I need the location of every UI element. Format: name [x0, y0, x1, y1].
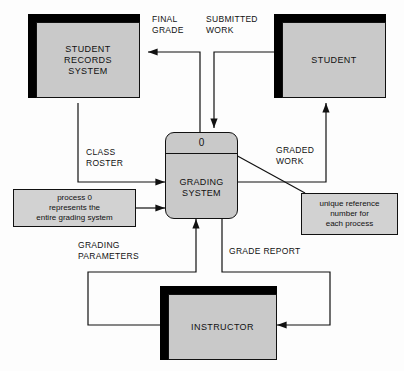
flow-label-grade-report: GRADE REPORT: [229, 246, 300, 257]
flow-label-graded-work: GRADED WORK: [276, 145, 314, 166]
entity-face: STUDENT RECORDS SYSTEM: [36, 22, 140, 98]
entity-instructor[interactable]: INSTRUCTOR: [160, 286, 277, 360]
flow-line-final-grade: [148, 52, 200, 132]
process-grading-system[interactable]: 0 GRADING SYSTEM: [165, 132, 238, 219]
note-text: unique reference number for each process: [319, 199, 379, 229]
process-divider: [166, 153, 237, 154]
entity-face: INSTRUCTOR: [168, 294, 277, 360]
note-text: process 0 represents the entire grading …: [36, 193, 112, 223]
note-unique-reference: unique reference number for each process: [301, 193, 398, 235]
flow-label-final-grade: FINAL GRADE: [152, 14, 184, 35]
dfd-diagram-canvas: STUDENT RECORDS SYSTEM STUDENT INSTRUCTO…: [0, 0, 404, 371]
process-number: 0: [166, 137, 237, 148]
entity-student-records-system[interactable]: STUDENT RECORDS SYSTEM: [28, 14, 140, 98]
entity-label: STUDENT RECORDS SYSTEM: [64, 44, 112, 77]
entity-student[interactable]: STUDENT: [274, 14, 386, 98]
entity-label: INSTRUCTOR: [191, 322, 254, 333]
flow-label-grading-parameters: GRADING PARAMETERS: [78, 240, 139, 261]
note-process-zero: process 0 represents the entire grading …: [13, 189, 136, 227]
flow-label-submitted-work: SUBMITTED WORK: [206, 14, 258, 35]
flow-line-submitted-work: [214, 52, 274, 128]
entity-label: STUDENT: [311, 55, 356, 66]
flow-line-class-roster: [78, 103, 165, 182]
entity-face: STUDENT: [282, 22, 386, 98]
flow-line-graded-work: [238, 103, 326, 182]
process-name: GRADING SYSTEM: [166, 177, 237, 199]
flow-label-class-roster: CLASS ROSTER: [86, 147, 123, 168]
